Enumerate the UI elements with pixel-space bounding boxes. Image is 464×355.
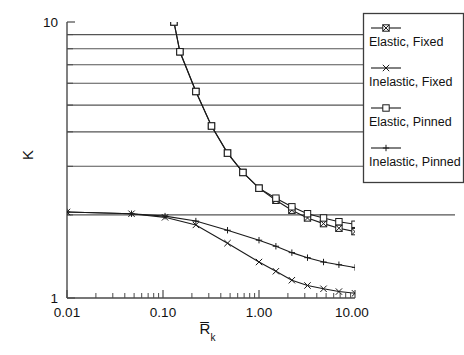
y-axis-title: K	[19, 150, 36, 160]
data-point	[304, 211, 310, 217]
x-tick-label-3: 10.00	[335, 305, 369, 320]
data-point	[256, 185, 262, 191]
x-tick-label-1: 0.10	[150, 305, 176, 320]
data-point	[273, 195, 279, 201]
data-point	[193, 88, 199, 94]
log-log-line-chart: 10 1 0.01 0.10 1.00 10.00 R̅ k K Elastic…	[0, 0, 464, 355]
legend: Elastic, FixedInelastic, FixedElastic, P…	[364, 14, 464, 183]
x-axis-title: R̅	[200, 320, 211, 337]
x-tick-label-2: 1.00	[246, 305, 272, 320]
data-point	[208, 123, 214, 129]
data-point	[177, 49, 183, 55]
data-point	[224, 150, 230, 156]
data-point	[240, 169, 246, 175]
chart-figure: 10 1 0.01 0.10 1.00 10.00 R̅ k K Elastic…	[0, 0, 464, 355]
legend-label: Elastic, Pinned	[369, 115, 452, 129]
y-tick-label-10: 10	[43, 15, 58, 30]
data-point	[336, 218, 342, 224]
x-tick-label-0: 0.01	[54, 305, 80, 320]
data-point	[320, 215, 326, 221]
y-tick-label-1: 1	[50, 291, 58, 306]
data-point	[336, 225, 342, 231]
legend-label: Elastic, Fixed	[369, 35, 443, 49]
data-point	[289, 204, 295, 210]
legend-label: Inelastic, Pinned	[369, 155, 461, 169]
legend-label: Inelastic, Fixed	[369, 75, 452, 89]
legend-marker-boxed-x-icon	[383, 25, 389, 31]
legend-marker-square-icon	[383, 105, 389, 111]
